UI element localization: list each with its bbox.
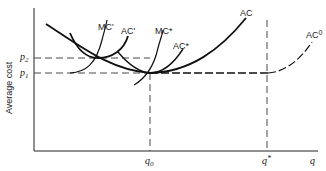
ac-prime-label: AC' [121,26,136,36]
mc-star-curve [134,30,163,85]
ac0-rise [268,42,312,73]
ac-star-label: AC* [173,41,190,51]
ac-label: AC [240,8,253,18]
qstar-label: q* [262,154,271,166]
mc-star-label: MC* [155,26,173,36]
y-axis-label: Average cost [4,61,14,114]
p2-label: p2 [19,51,29,64]
chart-svg: MC' AC' MC* AC* AC AC0 p2 p1 q0 q* q Ave… [0,0,326,171]
x-axis-label: q [310,155,315,166]
q0-label: q0 [145,155,154,168]
mc-prime-label: MC' [98,22,114,32]
ac0-label: AC0 [306,29,323,40]
chart: MC' AC' MC* AC* AC AC0 p2 p1 q0 q* q Ave… [0,0,326,171]
p1-label: p1 [19,67,29,80]
